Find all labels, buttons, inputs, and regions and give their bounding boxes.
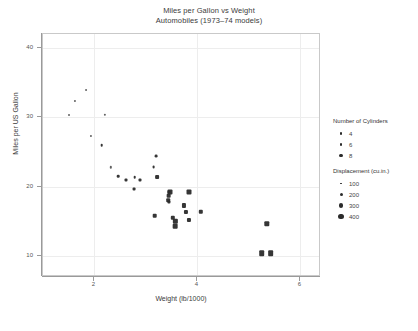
legend-displacement-title: Displacement (cu.in.): [333, 168, 389, 174]
x-tick-label: 2: [92, 281, 95, 287]
legend-item-label: 200: [349, 192, 359, 198]
legend-item[interactable]: 100: [333, 178, 389, 189]
legend-marker-icon: [333, 154, 349, 157]
y-tick-mark: [37, 186, 41, 187]
legend-marker-icon: [333, 193, 349, 196]
gridline-vertical: [94, 34, 95, 275]
gridline-vertical: [197, 34, 198, 275]
data-point: [133, 176, 136, 179]
data-point: [138, 178, 141, 181]
data-point: [100, 144, 103, 147]
data-point: [173, 219, 177, 223]
y-axis-title: Miles per US Gallon: [12, 64, 19, 184]
data-point: [264, 221, 269, 226]
x-axis-title: Weight (lb/1000): [42, 295, 320, 302]
data-point: [133, 187, 136, 190]
legend-cylinders-title: Number of Cylinders: [333, 118, 388, 124]
legend-item-label: 400: [349, 214, 359, 220]
data-point: [154, 155, 157, 158]
data-point: [199, 210, 203, 214]
chart-title: Miles per Gallon vs Weight Automobiles (…: [0, 6, 418, 26]
legend-item[interactable]: 8: [333, 150, 388, 161]
legend-displacement: Displacement (cu.in.) 100200300400: [333, 168, 389, 222]
data-point: [155, 175, 159, 179]
chart-title-line2: Automobiles (1973–74 models): [0, 16, 418, 26]
data-point: [187, 190, 192, 195]
y-tick-label: 30: [17, 113, 33, 119]
gridline-horizontal: [43, 48, 319, 49]
gridline-horizontal: [43, 187, 319, 188]
chart-title-line1: Miles per Gallon vs Weight: [0, 6, 418, 16]
legend-marker-icon: [333, 183, 349, 185]
data-point: [187, 218, 191, 222]
y-tick-label: 20: [17, 182, 33, 188]
data-point: [173, 224, 178, 229]
y-tick-label: 40: [17, 43, 33, 49]
legend-item-label: 4: [349, 131, 352, 137]
x-axis-line: [42, 276, 320, 277]
data-point: [268, 251, 274, 257]
y-tick-mark: [37, 116, 41, 117]
data-point: [90, 135, 92, 137]
legend-item[interactable]: 400: [333, 211, 389, 222]
y-axis-line: [41, 33, 42, 276]
legend-cylinders-rows: 468: [333, 128, 388, 161]
legend-item-label: 300: [349, 203, 359, 209]
data-point: [152, 214, 157, 219]
legend-displacement-rows: 100200300400: [333, 178, 389, 222]
y-tick-mark: [37, 47, 41, 48]
data-point: [68, 114, 70, 116]
plot-panel: [42, 33, 320, 276]
legend-marker-icon: [333, 132, 349, 134]
data-point: [259, 251, 265, 257]
data-point: [181, 203, 185, 207]
legend-item-label: 6: [349, 142, 352, 148]
y-tick-label: 10: [17, 252, 33, 258]
data-point: [117, 175, 120, 178]
y-tick-mark: [37, 255, 41, 256]
gridline-vertical: [300, 34, 301, 275]
legend-item[interactable]: 6: [333, 139, 388, 150]
data-point: [125, 178, 128, 181]
chart-root: Miles per Gallon vs Weight Automobiles (…: [0, 0, 418, 331]
legend-marker-icon: [333, 214, 349, 220]
data-point: [74, 100, 76, 102]
data-point: [184, 210, 188, 214]
x-tick-label: 6: [298, 281, 301, 287]
gridline-horizontal: [43, 256, 319, 257]
data-point: [167, 200, 170, 203]
legend-marker-icon: [333, 203, 349, 207]
x-tick-label: 4: [195, 281, 198, 287]
legend-item[interactable]: 4: [333, 128, 388, 139]
data-point: [152, 166, 155, 169]
data-point: [104, 113, 106, 115]
data-point: [167, 190, 172, 195]
legend-item-label: 100: [349, 181, 359, 187]
data-point: [110, 166, 112, 168]
legend-item[interactable]: 300: [333, 200, 389, 211]
data-point: [85, 89, 87, 91]
legend-cylinders: Number of Cylinders 468: [333, 118, 388, 161]
legend-marker-icon: [333, 143, 349, 146]
legend-item-label: 8: [349, 153, 352, 159]
gridline-horizontal: [43, 117, 319, 118]
legend-item[interactable]: 200: [333, 189, 389, 200]
